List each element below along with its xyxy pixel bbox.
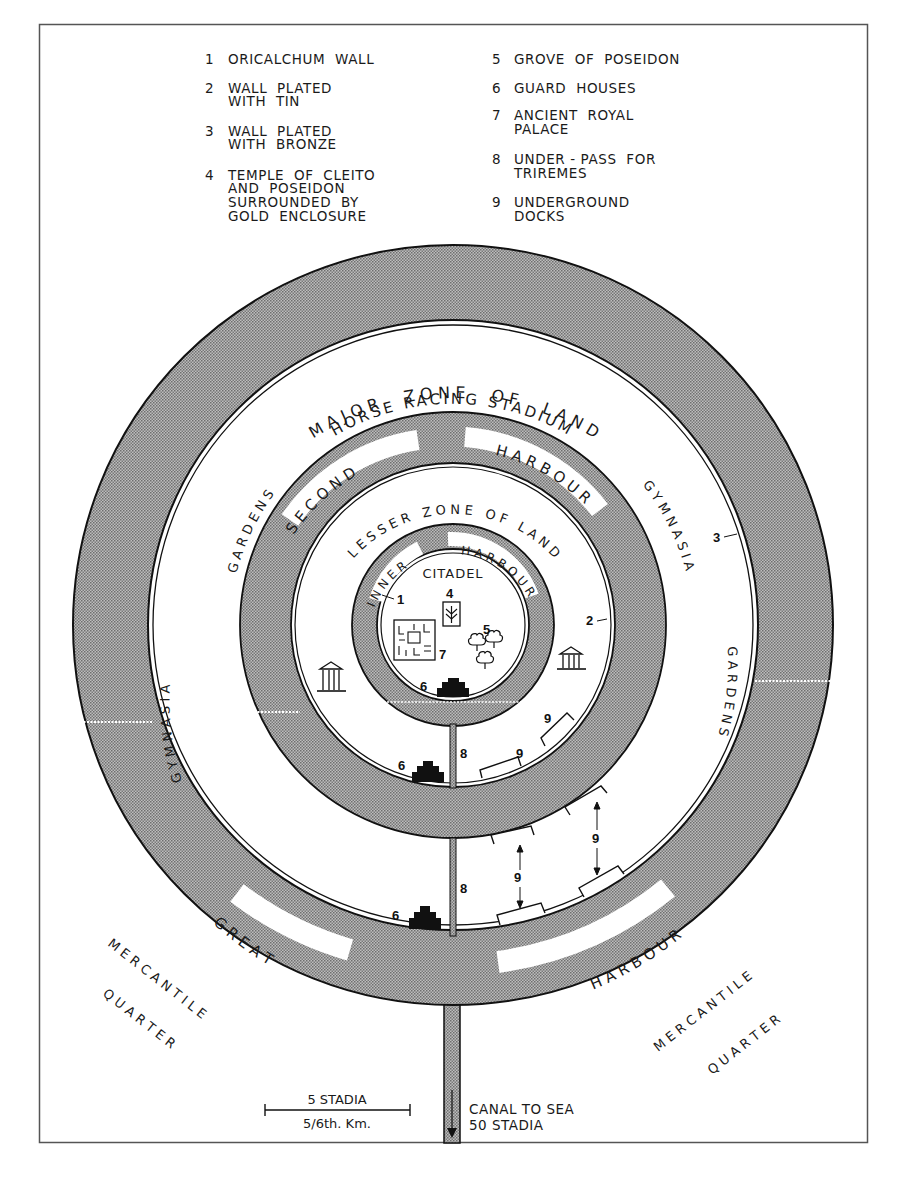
- marker-8-inner: 8: [460, 746, 467, 761]
- legend-num-6: 6: [492, 80, 501, 96]
- legend-item-4-line-4: GOLD ENCLOSURE: [228, 208, 367, 224]
- legend-item-2-line-2: WITH TIN: [228, 93, 300, 109]
- legend-num-2: 2: [205, 80, 214, 96]
- underpass-outer: [450, 838, 456, 936]
- underpass-inner: [450, 724, 456, 788]
- canal-label-line-2: 50 STADIA: [469, 1117, 544, 1133]
- marker-4: 4: [446, 586, 454, 601]
- marker-6-citadel: 6: [420, 679, 427, 694]
- legend-num-8: 8: [492, 151, 501, 167]
- royal-palace-icon: [394, 620, 435, 660]
- legend-item-5-line-1: GROVE OF POSEIDON: [514, 51, 680, 67]
- marker-9-c: 9: [514, 870, 521, 885]
- legend-item-8-line-2: TRIREMES: [513, 165, 587, 181]
- marker-7: 7: [439, 647, 446, 662]
- legend-left: 1 ORICALCHUM WALL 2 WALL PLATED WITH TIN…: [205, 51, 375, 224]
- legend-num-3: 3: [205, 123, 214, 139]
- legend-num-4: 4: [205, 167, 214, 183]
- label-citadel: CITADEL: [422, 566, 483, 581]
- legend-num-9: 9: [492, 194, 501, 210]
- legend-item-9-line-2: DOCKS: [514, 208, 565, 224]
- scale-bar: 5 STADIA 5/6th. Km.: [265, 1092, 410, 1131]
- scale-label-stadia: 5 STADIA: [307, 1092, 366, 1107]
- marker-5: 5: [483, 622, 490, 637]
- marker-8-outer: 8: [460, 881, 467, 896]
- legend: 1 ORICALCHUM WALL 2 WALL PLATED WITH TIN…: [205, 51, 680, 224]
- legend-item-7-line-2: PALACE: [514, 121, 569, 137]
- legend-num-1: 1: [205, 51, 214, 67]
- marker-2: 2: [586, 613, 593, 628]
- marker-9-b: 9: [544, 711, 551, 726]
- atlantis-map: 1 ORICALCHUM WALL 2 WALL PLATED WITH TIN…: [0, 0, 907, 1177]
- marker-3: 3: [713, 530, 720, 545]
- legend-num-5: 5: [492, 51, 501, 67]
- legend-num-7: 7: [492, 107, 501, 123]
- marker-9-a: 9: [516, 746, 523, 761]
- legend-item-3-line-2: WITH BRONZE: [228, 136, 337, 152]
- temple-cleito-icon: [443, 602, 460, 626]
- marker-6-major: 6: [392, 908, 399, 923]
- scale-label-km: 5/6th. Km.: [303, 1116, 371, 1131]
- marker-9-d: 9: [592, 831, 599, 846]
- canal-label-line-1: CANAL TO SEA: [469, 1101, 575, 1117]
- legend-right: 5 GROVE OF POSEIDON 6 GUARD HOUSES 7 ANC…: [492, 51, 680, 224]
- legend-item-6-line-1: GUARD HOUSES: [514, 80, 636, 96]
- legend-item-1-line-1: ORICALCHUM WALL: [228, 51, 374, 67]
- marker-6-lesser: 6: [398, 758, 405, 773]
- label-quarter-right: Q U A R T E R: [705, 1012, 783, 1078]
- marker-1: 1: [397, 592, 404, 607]
